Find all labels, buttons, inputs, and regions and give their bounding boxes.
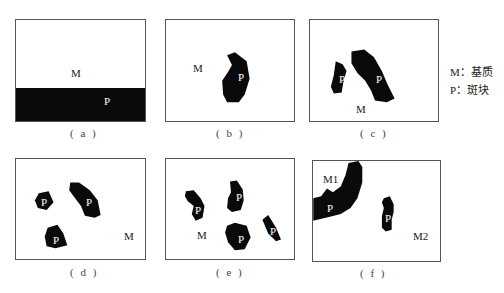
panel-a: M P <box>15 19 146 122</box>
caption-e: ( e ) <box>216 266 244 278</box>
panel-b: M P <box>165 19 295 122</box>
patch-label: P <box>53 235 59 246</box>
caption-b: ( b ) <box>216 127 244 139</box>
matrix-label: M <box>124 231 134 242</box>
patch-label: P <box>195 205 201 216</box>
legend: M：基质 P：斑块 <box>450 63 493 99</box>
patch-label: P <box>385 213 391 224</box>
matrix-label: M <box>356 104 366 115</box>
panel-d: P P P M <box>15 158 146 260</box>
patch-label: P <box>41 197 47 208</box>
legend-item-patch: P：斑块 <box>450 81 493 99</box>
patch-shapes <box>310 20 438 121</box>
patch-label: P <box>86 197 92 208</box>
panel-e: P P P P M <box>165 158 295 260</box>
patch-label: P <box>236 192 242 203</box>
patch-label: P <box>104 96 110 107</box>
caption-f: ( f ) <box>360 267 387 279</box>
matrix-label: M <box>197 230 207 241</box>
patch-label: P <box>238 234 244 245</box>
matrix-label: M <box>71 68 81 79</box>
patch-label: P <box>339 74 345 85</box>
matrix-label-m2: M2 <box>413 231 428 242</box>
legend-item-matrix: M：基质 <box>450 63 493 81</box>
patch-band <box>16 88 145 122</box>
caption-d: ( d ) <box>70 266 98 278</box>
panel-f: M1 P P M2 <box>312 160 441 262</box>
patch-shapes <box>166 159 294 259</box>
panel-c: P P M <box>309 19 439 122</box>
caption-c: ( c ) <box>360 127 388 139</box>
patch-shapes <box>16 159 145 259</box>
patch-label: P <box>376 74 382 85</box>
matrix-label-m1: M1 <box>323 174 338 185</box>
patch-shape <box>166 20 294 121</box>
matrix-label: M <box>193 63 203 74</box>
patch-label: P <box>270 226 276 237</box>
patch-label: P <box>238 72 244 83</box>
caption-a: ( a ) <box>70 127 98 139</box>
patch-label: P <box>327 203 333 214</box>
